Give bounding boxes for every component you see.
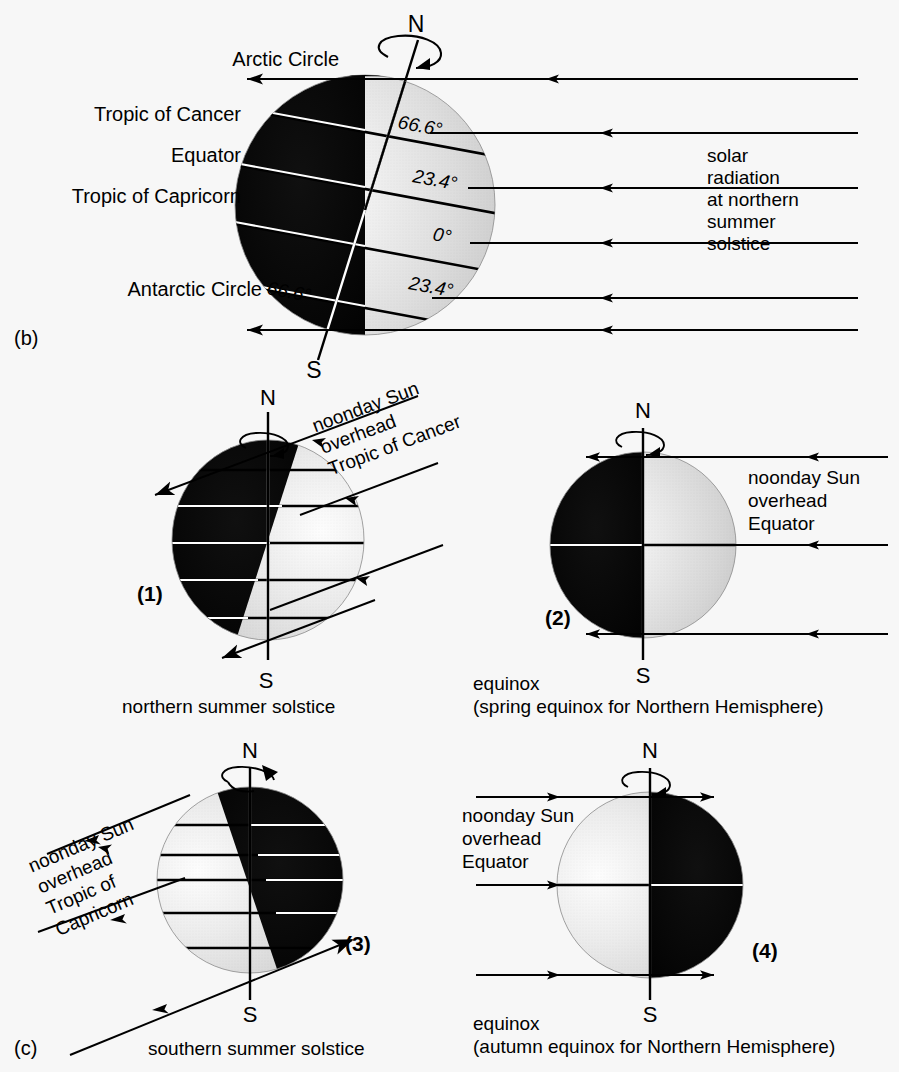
panel-2-pole-south: S [636,663,651,688]
label-tropic-of-capricorn: Tropic of Capricorn [72,185,241,207]
panel-b-label: (b) [14,327,38,349]
label-arctic-circle: Arctic Circle [232,48,339,70]
panel-1-pole-south: S [259,668,274,693]
panel-2-pole-north: N [635,398,651,423]
panel-4-pole-south: S [643,1002,658,1027]
panel-4-caption-1: equinox [473,1013,540,1034]
panel-4-annot-1: noonday Sun [462,805,574,826]
panel-3-pole-south: S [243,1002,258,1027]
panel-2-annot-1: noonday Sun [748,467,860,488]
caption-line-5: solstice [707,233,770,254]
panel-2-caption-1: equinox [473,673,540,694]
caption-line-4: summer [707,211,776,232]
panel-1-caption: northern summer solstice [122,696,335,717]
label-antarctic-circle: Antarctic Circle [128,278,262,300]
panel-1-number: (1) [137,582,163,605]
figure-root: Arctic Circle Tropic of Cancer Equator T… [0,0,899,1072]
panel-2-annot-3: Equator [748,513,815,534]
panel-3-pole-north: N [242,738,258,763]
panel-4-pole-north: N [642,738,658,763]
panel-3-caption: southern summer solstice [148,1038,364,1059]
panel-4-annot-2: overhead [462,828,541,849]
panel-2-number: (2) [545,606,571,629]
panel-c-label: (c) [14,1037,37,1059]
label-equator: Equator [171,144,241,166]
panel-2-caption-2: (spring equinox for Northern Hemisphere) [473,696,824,717]
main-pole-north-label: N [408,11,425,37]
caption-line-3: at northern [707,189,799,210]
main-pole-south-label: S [306,357,321,383]
panel-1-pole-north: N [260,385,276,410]
panel-2-annot-2: overhead [748,490,827,511]
panel-4-caption-2: (autumn equinox for Northern Hemisphere) [473,1036,835,1057]
caption-line-1: solar [707,145,749,166]
panel-4-annot-3: Equator [462,851,529,872]
panel-4-number: (4) [752,939,778,962]
panel-3-number: (3) [345,932,371,955]
caption-line-2: radiation [707,167,780,188]
label-tropic-of-cancer: Tropic of Cancer [94,103,241,125]
